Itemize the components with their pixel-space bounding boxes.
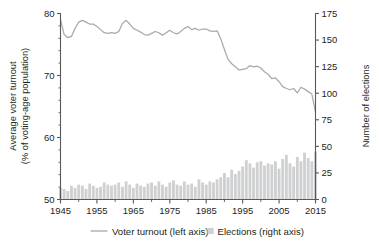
left-axis-tick-label: 50 bbox=[44, 194, 55, 205]
election-bar bbox=[310, 161, 313, 199]
election-bar bbox=[303, 153, 306, 200]
election-bar bbox=[77, 185, 80, 200]
election-bar bbox=[241, 167, 244, 200]
election-bar bbox=[300, 161, 303, 199]
election-bar bbox=[245, 160, 248, 199]
legend-label-elections: Elections (right axis) bbox=[218, 226, 304, 237]
legend-item-elections[interactable]: Elections (right axis) bbox=[208, 226, 304, 237]
right-axis-tick-label: 100 bbox=[322, 88, 338, 99]
election-bar bbox=[117, 182, 120, 199]
election-bar bbox=[187, 185, 190, 200]
election-bar bbox=[128, 185, 131, 200]
left-axis-title-line2: (% of voting-age population) bbox=[20, 48, 30, 164]
election-bar bbox=[176, 185, 179, 200]
left-axis-tick-label: 60 bbox=[44, 132, 55, 143]
bottom-axis-tick-label: 1955 bbox=[86, 205, 107, 216]
election-bar bbox=[281, 159, 284, 199]
bottom-axis-tick-label: 1975 bbox=[159, 205, 180, 216]
election-bar bbox=[238, 171, 241, 200]
election-bar bbox=[106, 185, 109, 200]
election-bar bbox=[150, 182, 153, 199]
election-bar bbox=[136, 184, 139, 200]
right-axis-tick-label: 175 bbox=[322, 8, 338, 19]
election-bar bbox=[307, 158, 310, 199]
right-axis-tick-label: 150 bbox=[322, 34, 338, 45]
bottom-axis-tick-label: 1945 bbox=[50, 205, 71, 216]
election-bar bbox=[270, 164, 273, 199]
right-axis-tick-label: 75 bbox=[322, 114, 333, 125]
election-bar bbox=[139, 186, 142, 200]
election-bar bbox=[85, 189, 88, 200]
bottom-axis-tick-label: 1985 bbox=[196, 205, 217, 216]
election-bar bbox=[96, 188, 99, 200]
election-bar bbox=[143, 187, 146, 200]
left-axis-title-line1: Average voter turnout bbox=[8, 61, 18, 151]
left-axis: 50607080 bbox=[44, 8, 61, 205]
election-bar bbox=[103, 182, 106, 199]
voter-turnout-elections-chart: 50607080 0255075100125150175 19451955196… bbox=[0, 0, 379, 246]
election-bar bbox=[201, 182, 204, 199]
right-axis-tick-label: 125 bbox=[322, 61, 338, 72]
election-bar bbox=[219, 177, 222, 199]
voter-turnout-line-series bbox=[61, 20, 316, 112]
bottom-axis-tick-label: 2005 bbox=[269, 205, 290, 216]
legend-item-voter-turnout[interactable]: Voter turnout (left axis) bbox=[91, 226, 209, 237]
election-bar bbox=[227, 177, 230, 199]
election-bar bbox=[161, 185, 164, 200]
election-bar bbox=[223, 173, 226, 200]
chart-figure: 50607080 0255075100125150175 19451955196… bbox=[0, 0, 379, 246]
election-bar bbox=[121, 187, 124, 200]
election-bar bbox=[81, 186, 84, 200]
election-bar bbox=[263, 165, 266, 199]
right-axis: 0255075100125150175 bbox=[316, 8, 338, 205]
election-bar bbox=[292, 167, 295, 200]
election-bar bbox=[172, 180, 175, 199]
election-bar bbox=[296, 157, 299, 200]
election-bar bbox=[63, 189, 66, 200]
elections-bar-series bbox=[59, 152, 317, 200]
election-bar bbox=[234, 174, 237, 200]
bottom-axis-tick-label: 1965 bbox=[123, 205, 144, 216]
right-axis-title-text: Number of elections bbox=[361, 64, 371, 147]
election-bar bbox=[147, 184, 150, 200]
election-bar bbox=[194, 187, 197, 200]
right-axis-tick-label: 0 bbox=[322, 194, 327, 205]
election-bar bbox=[285, 155, 288, 200]
election-bar bbox=[154, 186, 157, 200]
turnout-line-path bbox=[61, 20, 316, 112]
election-bar bbox=[66, 191, 69, 200]
election-bar bbox=[230, 170, 233, 200]
right-axis-title: Number of elections bbox=[361, 64, 371, 147]
election-bar bbox=[88, 184, 91, 200]
left-axis-title: Average voter turnout (% of voting-age p… bbox=[8, 48, 30, 164]
chart-legend: Voter turnout (left axis)Elections (righ… bbox=[91, 226, 304, 237]
election-bar bbox=[92, 186, 95, 200]
election-bar bbox=[125, 181, 128, 199]
election-bar bbox=[278, 169, 281, 200]
election-bar bbox=[110, 186, 113, 200]
legend-square-swatch bbox=[208, 228, 214, 234]
election-bar bbox=[168, 182, 171, 199]
right-axis-tick-label: 25 bbox=[322, 167, 333, 178]
left-axis-tick-label: 80 bbox=[44, 8, 55, 19]
election-bar bbox=[259, 161, 262, 199]
election-bar bbox=[267, 163, 270, 199]
bottom-axis: 19451955196519751985199520052015 bbox=[50, 200, 326, 217]
legend-label-voter-turnout: Voter turnout (left axis) bbox=[112, 226, 209, 237]
election-bar bbox=[252, 168, 255, 200]
election-bar bbox=[183, 181, 186, 199]
bottom-axis-tick-label: 2015 bbox=[305, 205, 326, 216]
right-axis-tick-label: 50 bbox=[322, 141, 333, 152]
left-axis-tick-label: 70 bbox=[44, 70, 55, 81]
election-bar bbox=[216, 179, 219, 199]
election-bar bbox=[74, 188, 77, 200]
election-bar bbox=[274, 161, 277, 199]
election-bar bbox=[205, 185, 208, 200]
election-bar bbox=[249, 163, 252, 199]
election-bar bbox=[198, 179, 201, 199]
bottom-axis-tick-label: 1995 bbox=[232, 205, 253, 216]
election-bar bbox=[179, 186, 182, 200]
election-bar bbox=[212, 182, 215, 199]
election-bar bbox=[190, 184, 193, 200]
election-bar bbox=[208, 181, 211, 199]
